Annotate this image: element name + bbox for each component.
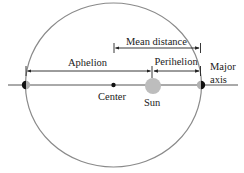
center-dot-icon <box>111 83 115 87</box>
sun-icon <box>145 78 161 94</box>
major-axis-label-line1: Major <box>210 61 236 72</box>
aphelion-label: Aphelion <box>68 57 108 68</box>
sun-label: Sun <box>144 97 161 108</box>
mean-distance-label: Mean distance <box>126 36 187 47</box>
perihelion-label: Perihelion <box>155 56 199 67</box>
center-label: Center <box>98 91 126 102</box>
planet-perihelion-icon <box>197 81 205 89</box>
orbit-diagram: Mean distance Aphelion Perihelion Major … <box>0 0 244 173</box>
perihelion-arrow <box>154 66 201 76</box>
planet-aphelion-icon <box>22 81 30 89</box>
major-axis-label-line2: axis <box>210 74 227 85</box>
